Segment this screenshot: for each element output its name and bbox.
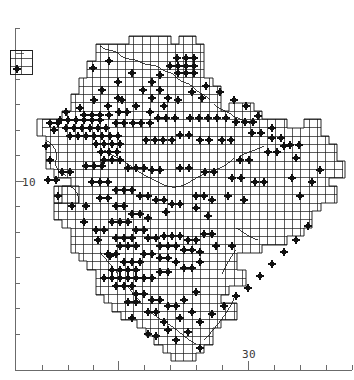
distribution-map-figure: 30 10 — [0, 0, 354, 380]
map-canvas: 30 10 — [0, 0, 354, 380]
x-axis-label: 30 — [242, 348, 256, 361]
y-axis-label: 10 — [22, 176, 36, 189]
